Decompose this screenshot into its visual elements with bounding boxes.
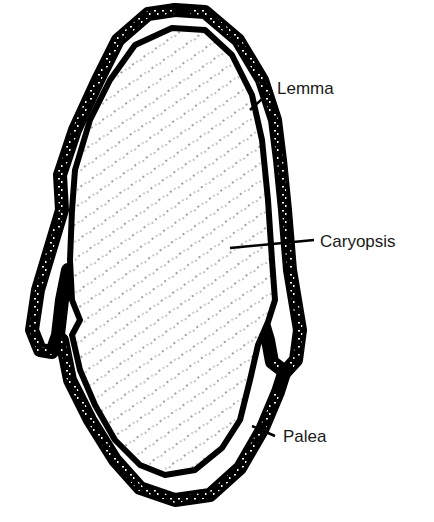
palea-label: Palea: [283, 428, 326, 445]
floret-cross-section-diagram: [0, 0, 434, 522]
caryopsis-label: Caryopsis: [320, 233, 396, 250]
caryopsis-structure: [70, 28, 275, 475]
lemma-label: Lemma: [277, 80, 334, 97]
lemma-tip-mark: [176, 4, 190, 14]
